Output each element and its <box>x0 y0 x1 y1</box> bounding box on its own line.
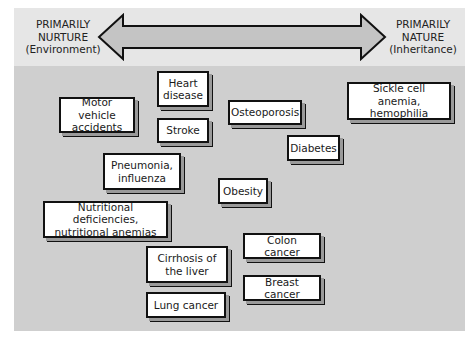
box-label-line: Pneumonia, <box>111 159 173 172</box>
box-label-line: Cirrhosis of <box>158 252 217 265</box>
nature-label-line1: PRIMARILY <box>384 18 462 31</box>
box-label-line: Stroke <box>166 124 199 137</box>
box-label-line: nutritional anemias <box>49 226 162 239</box>
box-motor-vehicle-accidents: Motor vehicleaccidents <box>59 97 135 133</box>
box-label-line: Osteoporosis <box>231 106 299 119</box>
nature-label-line3: (Inheritance) <box>384 43 462 56</box>
box-lung-cancer: Lung cancer <box>146 292 226 318</box>
box-label-line: Breast cancer <box>249 276 315 301</box>
box-diabetes: Diabetes <box>287 135 340 161</box>
double-arrow-icon <box>97 13 387 61</box>
nurture-label-line1: PRIMARILY <box>24 18 102 31</box>
box-osteoporosis: Osteoporosis <box>228 100 302 125</box>
box-nutritional-deficiencies: Nutritional deficiencies,nutritional ane… <box>43 201 168 238</box>
box-label-line: Colon cancer <box>249 234 315 259</box>
box-breast-cancer: Breast cancer <box>243 275 321 301</box>
nurture-label: PRIMARILY NURTURE (Environment) <box>24 18 102 56</box>
nurture-label-line2: NURTURE <box>24 31 102 44</box>
box-label-line: Sickle cell anemia, <box>353 82 445 107</box>
box-label-line: Diabetes <box>290 142 337 155</box>
box-colon-cancer: Colon cancer <box>243 233 321 259</box>
nature-label: PRIMARILY NATURE (Inheritance) <box>384 18 462 56</box>
box-obesity: Obesity <box>218 178 268 204</box>
box-sickle-cell-hemophilia: Sickle cell anemia,hemophilia <box>347 82 451 120</box>
box-label-line: disease <box>163 89 203 102</box>
box-label-line: hemophilia <box>353 107 445 120</box>
box-label-line: Motor vehicle <box>65 96 129 121</box>
box-label-line: accidents <box>65 121 129 134</box>
box-label-line: Nutritional deficiencies, <box>49 201 162 226</box>
box-heart-disease: Heartdisease <box>157 71 209 107</box>
nurture-label-line3: (Environment) <box>24 43 102 56</box>
box-label-line: the liver <box>158 265 217 278</box>
box-stroke: Stroke <box>157 118 209 143</box>
box-pneumonia-influenza: Pneumonia,influenza <box>103 153 181 190</box>
box-label-line: Lung cancer <box>154 299 218 312</box>
box-label-line: influenza <box>111 172 173 185</box>
nature-label-line2: NATURE <box>384 31 462 44</box>
box-label-line: Obesity <box>223 185 263 198</box>
box-label-line: Heart <box>163 77 203 90</box>
box-cirrhosis-liver: Cirrhosis ofthe liver <box>146 246 228 283</box>
